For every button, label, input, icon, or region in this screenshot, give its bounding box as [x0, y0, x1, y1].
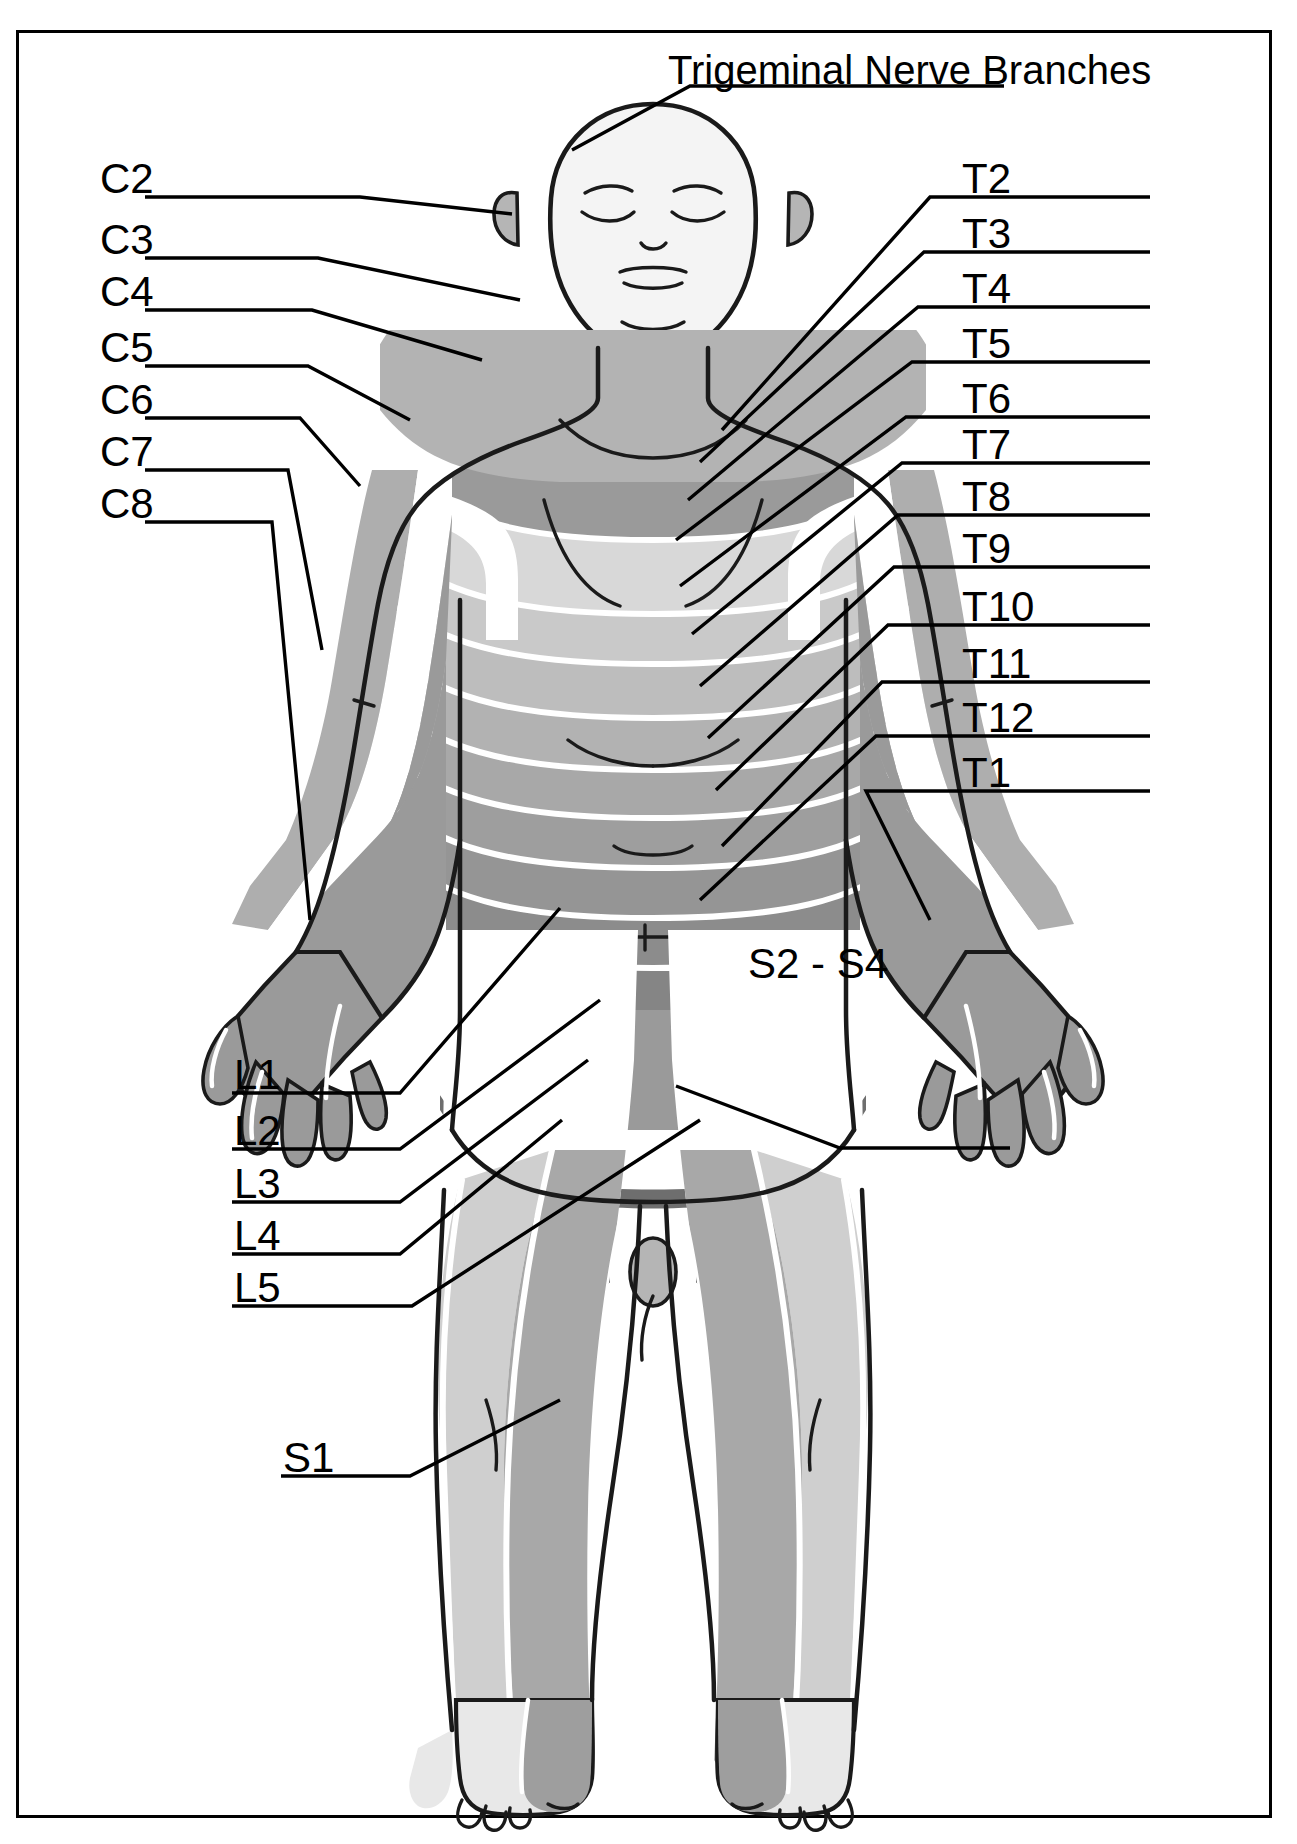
label-trigeminal-nerve-branches: Trigeminal Nerve Branches: [668, 48, 1151, 93]
label-T3: T3: [962, 213, 1011, 255]
head-shape: [550, 104, 756, 360]
hand-right: [920, 952, 1103, 1166]
label-C8: C8: [100, 483, 154, 525]
head-group: [494, 104, 812, 360]
leader-C7: [145, 470, 322, 650]
label-T8: T8: [962, 476, 1011, 518]
label-L2: L2: [234, 1110, 281, 1152]
label-S2-S4: S2 - S4: [748, 943, 888, 985]
anatomical-figure: .ol { fill:none; stroke:#1a1a1a; stroke-…: [0, 0, 1297, 1844]
label-T4: T4: [962, 268, 1011, 310]
label-T10: T10: [962, 586, 1034, 628]
label-L3: L3: [234, 1163, 281, 1205]
label-T6: T6: [962, 378, 1011, 420]
leader-C2: [145, 197, 512, 214]
label-T7: T7: [962, 424, 1011, 466]
foot-S1-right: [718, 1700, 787, 1812]
label-T9: T9: [962, 528, 1011, 570]
hand-left: [203, 952, 386, 1166]
thumb-right: [920, 1062, 954, 1129]
ear-left: [494, 192, 518, 245]
foot-right: [717, 1700, 854, 1830]
ear-right: [788, 192, 812, 245]
label-T11: T11: [962, 643, 1031, 685]
label-S1: S1: [283, 1437, 334, 1479]
foot-S1-left: [523, 1700, 592, 1812]
label-T1: T1: [962, 752, 1011, 794]
label-T12: T12: [962, 697, 1034, 739]
label-C6: C6: [100, 379, 154, 421]
foot-left: [409, 1700, 593, 1830]
label-L1: L1: [234, 1054, 281, 1096]
label-C4: C4: [100, 271, 154, 313]
label-C7: C7: [100, 431, 154, 473]
label-T2: T2: [962, 158, 1011, 200]
label-C5: C5: [100, 327, 154, 369]
thumb-left: [352, 1062, 386, 1129]
label-L4: L4: [234, 1215, 281, 1257]
dermatome-diagram-page: .ol { fill:none; stroke:#1a1a1a; stroke-…: [0, 0, 1297, 1844]
label-C3: C3: [100, 219, 154, 261]
leader-C3: [145, 258, 520, 300]
leader-C6: [145, 418, 360, 486]
label-L5: L5: [234, 1267, 281, 1309]
label-C2: C2: [100, 158, 154, 200]
leader-C5: [145, 366, 410, 420]
label-T5: T5: [962, 323, 1011, 365]
